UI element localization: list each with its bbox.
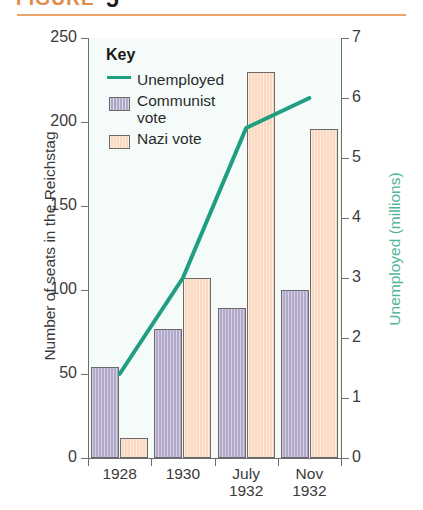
y-tick-label-left: 250 xyxy=(31,28,77,46)
y-tick-right xyxy=(341,338,349,339)
y-tick-right xyxy=(341,218,349,219)
figure-header: FIGURE 5 xyxy=(0,0,423,22)
y-tick-right xyxy=(341,398,349,399)
legend-title: Key xyxy=(106,46,234,64)
y-tick-label-right: 0 xyxy=(352,448,382,466)
legend-label: Communist vote xyxy=(134,92,234,126)
chart-legend: Key UnemployedCommunist voteNazi vote xyxy=(104,46,234,153)
figure-label: FIGURE xyxy=(16,0,95,10)
y-tick-label-left: 0 xyxy=(31,448,77,466)
legend-swatch xyxy=(104,71,134,79)
legend-swatch xyxy=(104,92,134,111)
y-tick-label-right: 6 xyxy=(352,88,382,106)
y-tick-right xyxy=(341,98,349,99)
y-tick-label-right: 2 xyxy=(352,328,382,346)
y-tick-label-right: 1 xyxy=(352,388,382,406)
x-tick-label: Nov1932 xyxy=(272,465,346,499)
y-axis-left-title: Number of seats in the Reichstag xyxy=(41,46,59,446)
y-tick-right xyxy=(341,38,349,39)
legend-entries: UnemployedCommunist voteNazi vote xyxy=(104,71,234,149)
y-tick-label-right: 5 xyxy=(352,148,382,166)
y-tick-label-right: 4 xyxy=(352,208,382,226)
legend-entry: Unemployed xyxy=(104,71,234,88)
figure-number: 5 xyxy=(106,0,119,13)
x-tick-label-line2: 1932 xyxy=(272,482,346,499)
y-tick-right xyxy=(341,278,349,279)
header-divider xyxy=(17,14,406,16)
y-tick-label-right: 3 xyxy=(352,268,382,286)
legend-box-icon xyxy=(109,97,130,111)
y-tick-right xyxy=(341,458,349,459)
legend-label: Unemployed xyxy=(134,71,224,88)
legend-entry: Communist vote xyxy=(104,92,234,126)
legend-line-icon xyxy=(107,76,131,79)
legend-entry: Nazi vote xyxy=(104,130,234,149)
legend-box-icon xyxy=(109,135,130,149)
legend-swatch xyxy=(104,130,134,149)
x-tick-label-line1: Nov xyxy=(272,465,346,482)
chart-container: 050100150200250 01234567 19281930July193… xyxy=(0,22,423,510)
y-tick-right xyxy=(341,158,349,159)
legend-label: Nazi vote xyxy=(134,130,202,147)
y-axis-right-title: Unemployed (millions) xyxy=(386,49,404,449)
y-tick-label-right: 7 xyxy=(352,28,382,46)
